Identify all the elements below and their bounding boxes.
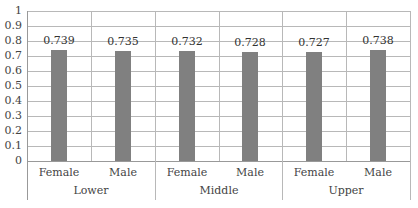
group-divider: [410, 11, 411, 200]
value-label: 0.738: [348, 35, 408, 47]
y-tick-label: 0.5: [0, 80, 22, 92]
y-tick-label: 0.4: [0, 95, 22, 107]
value-label: 0.735: [93, 36, 153, 48]
y-tick-label: 0.9: [0, 20, 22, 32]
gridline-x: [219, 11, 220, 161]
group-label: Lower: [27, 185, 155, 197]
group-label: Upper: [282, 185, 410, 197]
x-tick-label: Male: [346, 167, 410, 179]
bar-chart: 00.10.20.30.40.50.60.70.80.91 0.7390.735…: [0, 0, 418, 208]
gridline-y: [27, 161, 410, 162]
value-label: 0.732: [157, 36, 217, 48]
bar: [370, 50, 386, 161]
y-tick-label: 0.6: [0, 65, 22, 77]
y-tick-label: 0.2: [0, 125, 22, 137]
x-tick-label: Female: [282, 167, 346, 179]
bar: [115, 51, 131, 161]
x-tick-label: Female: [155, 167, 219, 179]
bar: [306, 52, 322, 161]
x-tick-label: Male: [91, 167, 155, 179]
value-label: 0.739: [29, 35, 89, 47]
y-tick-label: 0: [0, 155, 22, 167]
bar: [179, 51, 195, 161]
bar: [242, 52, 258, 161]
gridline-x: [346, 11, 347, 161]
y-tick-label: 0.1: [0, 140, 22, 152]
value-label: 0.728: [220, 37, 280, 49]
bar: [51, 50, 67, 161]
y-tick-label: 0.3: [0, 110, 22, 122]
x-tick-label: Male: [218, 167, 282, 179]
x-tick-label: Female: [27, 167, 91, 179]
y-tick-label: 1: [0, 5, 22, 17]
y-tick-label: 0.8: [0, 35, 22, 47]
group-label: Middle: [155, 185, 283, 197]
y-tick-label: 0.7: [0, 50, 22, 62]
value-label: 0.727: [284, 37, 344, 49]
gridline-x: [91, 11, 92, 161]
